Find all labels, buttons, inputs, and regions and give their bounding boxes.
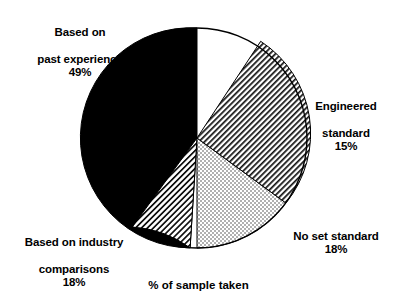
- pie-label-past-experience-line2: past experience: [37, 53, 122, 65]
- pie-label-engineered-standard-line1: Engineered: [315, 100, 377, 112]
- pie-label-no-set-standard-value: 18%: [280, 243, 392, 257]
- pie-label-engineered-standard-value: 15%: [300, 140, 392, 154]
- pie-label-past-experience-line1: Based on: [55, 26, 106, 38]
- pie-label-industry-comparisons-line2: comparisons: [39, 263, 109, 275]
- pie-label-no-set-standard-line1: No set standard: [293, 230, 378, 242]
- pie-label-engineered-standard-line2: standard: [322, 127, 370, 139]
- chart-caption: % of sample taken: [0, 279, 397, 291]
- pie-chart: Based on past experience 49% Engineered …: [0, 0, 397, 308]
- pie-label-past-experience: Based on past experience 49%: [14, 12, 146, 93]
- pie-label-past-experience-value: 49%: [14, 66, 146, 80]
- pie-label-engineered-standard: Engineered standard 15%: [300, 86, 392, 167]
- pie-label-no-set-standard: No set standard 18%: [280, 216, 392, 270]
- pie-label-industry-comparisons-line1: Based on industry: [25, 236, 124, 248]
